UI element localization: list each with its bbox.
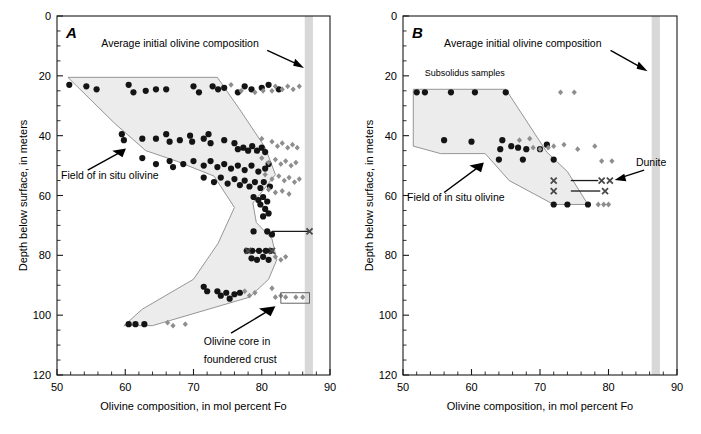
data-point-circle [472, 89, 478, 95]
data-point-circle [201, 136, 207, 142]
data-point-circle [163, 86, 169, 92]
annotation-olivine-core-line2: foundered crust [204, 353, 277, 365]
y-tick-label: 0 [45, 10, 51, 22]
x-tick-label: 90 [324, 381, 336, 393]
data-point-circle [223, 290, 229, 296]
data-point-circle [441, 137, 447, 143]
data-point-diamond [295, 145, 300, 151]
data-point-circle [264, 198, 270, 204]
data-point-circle [257, 201, 263, 207]
data-point-circle [551, 201, 557, 207]
data-point-circle [141, 321, 147, 327]
data-point-circle [250, 228, 256, 234]
data-point-x [607, 178, 613, 184]
data-point-diamond [228, 82, 233, 88]
data-point-circle [242, 83, 248, 89]
data-point-diamond [170, 323, 175, 329]
data-point-circle [204, 288, 210, 294]
data-point-circle [248, 162, 254, 168]
y-tick-label: 0 [391, 10, 397, 22]
data-point-circle [218, 174, 224, 180]
data-point-diamond [297, 83, 302, 89]
data-point-circle [130, 89, 136, 95]
data-point-circle [265, 210, 271, 216]
y-tick-label: 120 [33, 369, 51, 381]
data-point-circle [221, 137, 227, 143]
arrowhead-average-initial [637, 61, 648, 71]
data-point-circle [551, 157, 557, 163]
data-point-circle [83, 83, 89, 89]
data-point-circle [564, 201, 570, 207]
data-point-circle [499, 137, 505, 143]
data-point-diamond [300, 294, 305, 300]
y-tick-label: 20 [385, 70, 397, 82]
x-tick-label: 80 [602, 381, 614, 393]
data-point-circle [207, 158, 213, 164]
data-point-circle [265, 82, 271, 88]
y-tick-label: 80 [385, 249, 397, 261]
annotation-dunite: Dunite [636, 156, 667, 168]
data-point-diamond [269, 285, 274, 291]
data-point-circle [585, 201, 591, 207]
data-point-diamond [292, 179, 297, 185]
data-point-diamond [278, 161, 283, 167]
field-of-in-situ-olivine-polygon [68, 77, 277, 325]
x-tick-label: 70 [534, 381, 546, 393]
olivine-depth-figure: 5060708090Olivine composition, in mol pe… [0, 0, 701, 434]
data-point-circle [210, 83, 216, 89]
data-point-circle [139, 155, 145, 161]
annotation-olivine-core-line1: Olivine core in [204, 335, 271, 347]
data-point-circle [119, 131, 125, 137]
data-point-diamond [283, 158, 288, 164]
data-point-circle [211, 179, 217, 185]
data-point-circle [93, 86, 99, 92]
data-point-circle [235, 162, 241, 168]
data-point-circle [468, 139, 474, 145]
x-tick-label: 50 [51, 381, 63, 393]
data-point-circle [143, 88, 149, 94]
data-point-circle [215, 86, 221, 92]
data-point-diamond [561, 142, 566, 148]
data-point-circle [167, 139, 173, 145]
arrowhead-field-in-situ [469, 163, 483, 173]
data-point-circle [515, 145, 521, 151]
data-point-diamond [551, 143, 556, 149]
y-axis-title: Depth below surface, in meters [17, 119, 29, 271]
arrowhead-dunite [615, 174, 627, 181]
average-initial-composition-band [652, 16, 660, 375]
data-point-diamond [290, 142, 295, 148]
data-point-diamond [273, 190, 278, 196]
data-point-circle [496, 157, 502, 163]
data-point-circle [269, 231, 275, 237]
data-point-diamond [285, 83, 290, 89]
leader-field-in-situ [88, 152, 121, 170]
data-point-circle [196, 89, 202, 95]
data-point-diamond [280, 188, 285, 194]
data-point-circle [139, 136, 145, 142]
data-point-circle [262, 149, 268, 155]
data-point-diamond [278, 257, 283, 263]
data-point-circle [508, 143, 514, 149]
x-tick-label: 50 [397, 381, 409, 393]
data-point-circle [207, 140, 213, 146]
data-point-diamond [269, 139, 274, 145]
data-point-diamond [286, 175, 291, 181]
data-point-diamond [283, 254, 288, 260]
data-point-circle [231, 176, 237, 182]
data-point-circle [170, 164, 176, 170]
data-point-circle [163, 131, 169, 137]
y-tick-label: 120 [379, 369, 397, 381]
data-point-x [602, 188, 608, 194]
data-point-diamond [601, 202, 606, 208]
data-point-circle [132, 321, 138, 327]
y-tick-label: 40 [39, 130, 51, 142]
x-tick-label: 60 [465, 381, 477, 393]
data-point-circle [448, 89, 454, 95]
data-point-circle [249, 143, 255, 149]
data-point-circle [246, 183, 252, 189]
x-tick-label: 80 [256, 381, 268, 393]
y-tick-label: 80 [39, 249, 51, 261]
y-tick-label: 20 [39, 70, 51, 82]
data-point-diamond [575, 146, 580, 152]
data-point-circle [227, 296, 233, 302]
